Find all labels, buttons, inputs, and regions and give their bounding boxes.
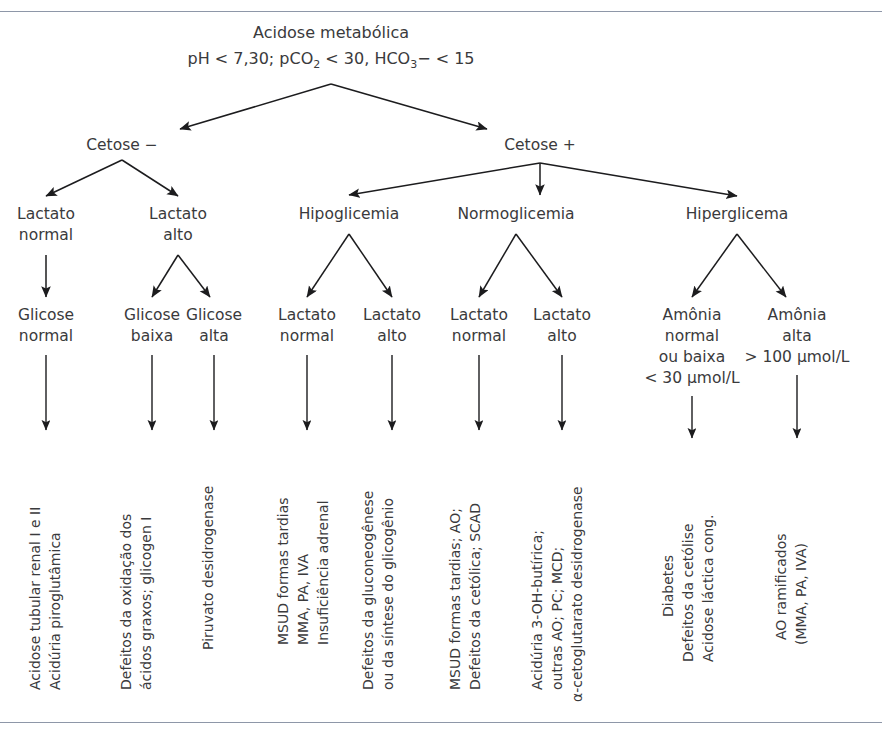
node-amonia-alta-l3: > 100 µmol/L <box>744 348 849 366</box>
edge-hiperglicema-to-amonia-normal <box>692 234 737 297</box>
outcome-glicose-alta-0: Piruvato desidrogenase <box>200 486 216 650</box>
edge-root-to-cetose-pos <box>331 84 487 129</box>
edge-normoglicemia-to-lactato-normal <box>479 234 516 297</box>
node-glicose-alta-l2: alta <box>199 327 228 345</box>
outcome-glicose-baixa-1: ácidos graxos; glicogen I <box>138 517 154 690</box>
outcome-glicose-normal-0: Acidose tubular renal I e II <box>27 507 43 690</box>
node-hipo-lactato-alto-l2: alto <box>377 327 406 345</box>
outcome-hipo-lactato-alto-0: Defeitos da gluconeogênese <box>360 491 376 690</box>
edge-normoglicemia-to-lactato-alto <box>516 234 562 297</box>
node-amonia-normal-l4: < 30 µmol/L <box>644 369 740 387</box>
node-cetose-positivo: Cetose + <box>504 136 575 154</box>
outcome-normo-lactato-normal-0: MSUD formas tardias; AO; <box>447 508 463 690</box>
edge-hipoglicemia-to-lactato-alto <box>349 234 392 297</box>
node-hiperglicema: Hiperglicema <box>686 205 789 223</box>
edge-lactatoalto-to-glicose-baixa <box>152 255 178 297</box>
outcome-hipo-lactato-normal-0: MSUD formas tardias <box>275 497 291 645</box>
edge-cetoseneg-to-lactato-alto <box>122 160 178 196</box>
edge-root-to-cetose-neg <box>180 84 331 129</box>
node-amonia-alta-l2: alta <box>782 327 811 345</box>
outcome-group-glicose-alta: Piruvato desidrogenase <box>200 486 216 650</box>
outcome-amonia-alta-0: AO ramificados <box>773 533 789 640</box>
edge-lactatoalto-to-glicose-alta <box>178 255 210 297</box>
node-normo-lactato-alto-l2: alto <box>547 327 576 345</box>
outcome-group-glicose-normal: Acidose tubular renal I e II Acidúria pi… <box>27 507 63 690</box>
edge-cetosepos-to-hiperglicema <box>540 163 737 196</box>
outcome-group-amonia-alta: AO ramificados (MMA, PA, IVA) <box>773 533 809 645</box>
decision-tree-diagram: Acidose metabólica pH < 7,30; pCO2 < 30,… <box>0 0 882 740</box>
node-hipo-lactato-alto-l1: Lactato <box>363 306 421 324</box>
node-glicose-baixa-l1: Glicose <box>124 306 180 324</box>
node-normo-lactato-normal-l2: normal <box>452 327 506 345</box>
node-amonia-normal-l1: Amônia <box>663 306 722 324</box>
outcome-normo-lactato-alto-0: Acidúria 3-OH-butírica; <box>529 530 545 690</box>
outcome-amonia-normal-2: Acidose láctica cong. <box>700 515 716 662</box>
outcome-normo-lactato-normal-1: Defeitos da cetólica; SCAD <box>467 503 483 690</box>
node-hipo-lactato-normal-l2: normal <box>280 327 334 345</box>
outcome-glicose-normal-1: Acidúria piroglutâmica <box>47 532 63 690</box>
node-normo-lactato-alto-l1: Lactato <box>533 306 591 324</box>
edge-hiperglicema-to-amonia-alta <box>737 234 786 297</box>
outcome-amonia-normal-1: Defeitos da cetólise <box>680 523 696 662</box>
outcome-group-amonia-normal: Diabetes Defeitos da cetólise Acidose lá… <box>660 515 716 662</box>
root-node-line1: Acidose metabólica <box>253 23 409 42</box>
node-amonia-normal-l3: ou baixa <box>659 348 726 366</box>
outcome-glicose-baixa-0: Defeitos da oxidação dos <box>118 514 134 690</box>
node-hipoglicemia: Hipoglicemia <box>299 205 400 223</box>
node-glicose-baixa-l2: baixa <box>131 327 173 345</box>
node-lactato-alto-l1: Lactato <box>149 205 207 223</box>
outcome-hipo-lactato-alto-1: ou da síntese do glicogênio <box>380 498 396 690</box>
node-normo-lactato-normal-l1: Lactato <box>450 306 508 324</box>
node-lactato-normal-l2: normal <box>19 226 73 244</box>
edge-hipoglicemia-to-lactato-normal <box>307 234 349 297</box>
node-glicose-normal-l2: normal <box>19 327 73 345</box>
node-hipo-lactato-normal-l1: Lactato <box>278 306 336 324</box>
outcome-hipo-lactato-normal-2: Insuficiência adrenal <box>315 500 331 645</box>
node-lactato-normal-l1: Lactato <box>17 205 75 223</box>
node-glicose-normal-l1: Glicose <box>18 306 74 324</box>
edge-cetoseneg-to-lactato-normal <box>46 160 122 196</box>
root-node-line2: pH < 7,30; pCO2 < 30, HCO3− < 15 <box>187 49 474 71</box>
outcome-normo-lactato-alto-1: outras AO; PC; MCD; <box>549 547 565 690</box>
node-amonia-normal-l2: normal <box>665 327 719 345</box>
node-normoglicemia: Normoglicemia <box>457 205 574 223</box>
outcome-normo-lactato-alto-2: α-cetoglutarato desidrogenase <box>569 486 585 702</box>
node-cetose-negativo: Cetose − <box>86 136 157 154</box>
node-lactato-alto-l2: alto <box>163 226 192 244</box>
outcome-group-hipo-lactato-alto: Defeitos da gluconeogênese ou da síntese… <box>360 491 396 690</box>
node-glicose-alta-l1: Glicose <box>186 306 242 324</box>
figure-canvas: Acidose metabólica pH < 7,30; pCO2 < 30,… <box>0 0 882 740</box>
edge-cetosepos-to-hipoglicemia <box>349 163 540 195</box>
outcome-hipo-lactato-normal-1: MMA, PA, IVA <box>295 554 311 645</box>
outcome-amonia-normal-0: Diabetes <box>660 555 676 617</box>
outcome-group-normo-lactato-alto: Acidúria 3-OH-butírica; outras AO; PC; M… <box>529 486 585 702</box>
outcome-group-hipo-lactato-normal: MSUD formas tardias MMA, PA, IVA Insufic… <box>275 497 331 645</box>
outcome-group-normo-lactato-normal: MSUD formas tardias; AO; Defeitos da cet… <box>447 503 483 690</box>
outcome-group-glicose-baixa: Defeitos da oxidação dos ácidos graxos; … <box>118 514 154 690</box>
node-amonia-alta-l1: Amônia <box>768 306 827 324</box>
outcome-amonia-alta-1: (MMA, PA, IVA) <box>793 543 809 645</box>
